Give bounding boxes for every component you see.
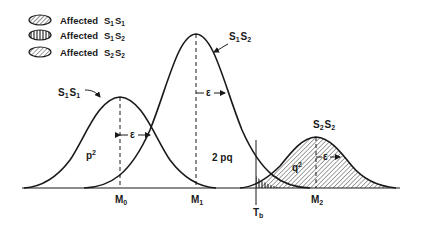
threshold-label: Tb: [253, 207, 263, 219]
svg-text:ε: ε: [323, 151, 328, 162]
label-s1s2: S1S2: [214, 31, 251, 52]
vertical-hatch-swatch-icon: [29, 30, 51, 40]
legend-label: Affected: [60, 30, 98, 41]
svg-text:S1S2: S1S2: [229, 31, 251, 43]
svg-text:ε: ε: [206, 87, 211, 98]
svg-text:S2S2: S2S2: [313, 119, 335, 131]
svg-text:AffectedS1S2: AffectedS1S2: [60, 30, 125, 42]
s2s2-affected-area: [256, 137, 396, 188]
label-s2s2: S2S2: [313, 119, 335, 131]
svg-text:ε: ε: [130, 129, 135, 140]
mean-label-m2: M2: [311, 194, 323, 206]
svg-text:S1S1: S1S1: [58, 87, 80, 99]
legend-item-s1s2: AffectedS1S2: [29, 30, 125, 42]
legend: AffectedS1S1 AffectedS1S2 AffectedS2S2: [29, 15, 125, 59]
svg-text:AffectedS1S1: AffectedS1S1: [60, 15, 125, 27]
dense-diagonal-hatch-swatch-icon: [29, 47, 51, 57]
diagonal-hatch-swatch-icon: [29, 15, 51, 25]
svg-text:AffectedS2S2: AffectedS2S2: [60, 47, 125, 59]
legend-label: Affected: [60, 15, 98, 26]
legend-label: Affected: [60, 47, 98, 58]
area-label-p2: p2: [86, 149, 96, 161]
label-s1s1: S1S1: [58, 87, 100, 99]
legend-item-s2s2: AffectedS2S2: [29, 47, 125, 59]
mean-label-m1: M1: [191, 194, 203, 206]
legend-item-s1s1: AffectedS1S1: [29, 15, 125, 27]
liability-threshold-diagram: AffectedS1S1 AffectedS1S2 AffectedS2S2 ε…: [0, 0, 427, 232]
epsilon-s1s2: ε: [196, 87, 225, 98]
area-label-2pq: 2 pq: [212, 152, 233, 163]
mean-label-m0: M0: [115, 194, 127, 206]
